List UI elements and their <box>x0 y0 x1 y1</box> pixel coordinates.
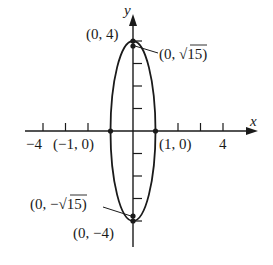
svg-text:(0, √15): (0, √15) <box>159 46 207 63</box>
label-vertex-bottom: (0, −4) <box>73 225 114 242</box>
label-focus-top: (0, √15) <box>159 45 207 63</box>
x-tick-label-4: 4 <box>219 136 227 152</box>
point-focus-bottom <box>130 213 135 218</box>
leader-focus-top <box>135 46 158 53</box>
point-covertex-right <box>153 128 158 133</box>
leader-focus-bottom <box>103 207 131 216</box>
point-vertex-top <box>130 38 135 43</box>
x-axis-label: x <box>249 113 257 129</box>
point-covertex-left <box>108 128 113 133</box>
label-covertex-left: (−1, 0) <box>53 136 94 153</box>
point-vertex-bottom <box>130 218 135 223</box>
label-covertex-right: (1, 0) <box>159 136 192 153</box>
ellipse-diagram: y x −4 4 (0, 4) (0, −4) (−1, 0) (1, 0) (… <box>0 0 273 265</box>
label-focus-bottom: (0, −√15) <box>30 195 87 213</box>
y-axis-label: y <box>122 2 131 18</box>
x-tick-label-neg4: −4 <box>26 136 42 152</box>
svg-text:(0, −√15): (0, −√15) <box>30 196 87 213</box>
label-vertex-top: (0, 4) <box>86 26 119 43</box>
diagram-canvas: y x −4 4 (0, 4) (0, −4) (−1, 0) (1, 0) (… <box>0 0 273 265</box>
point-focus-top <box>130 43 135 48</box>
